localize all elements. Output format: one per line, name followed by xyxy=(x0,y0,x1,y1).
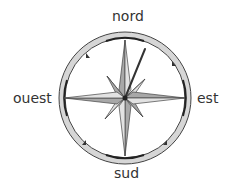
label-south: sud xyxy=(114,166,139,180)
compass-pivot xyxy=(123,96,128,101)
label-west: ouest xyxy=(13,91,52,105)
label-east: est xyxy=(197,91,218,105)
label-north: nord xyxy=(112,9,144,23)
